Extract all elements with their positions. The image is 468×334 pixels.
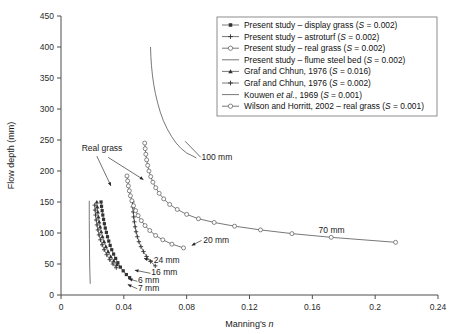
y-tick-label: 0 bbox=[49, 290, 54, 300]
data-marker-open-circle bbox=[144, 152, 148, 156]
data-marker-open-circle bbox=[128, 194, 132, 198]
annotation-leader-line bbox=[185, 141, 201, 157]
data-marker-plus bbox=[134, 230, 138, 234]
data-marker-filled-square bbox=[109, 244, 112, 247]
series-line bbox=[89, 201, 90, 284]
data-marker-plus bbox=[132, 215, 136, 219]
y-tick-group: 050100150200250300350400450 bbox=[40, 11, 61, 300]
legend-label: Present study – astroturf (S = 0.002) bbox=[244, 32, 379, 42]
x-tick-label: 0.12 bbox=[241, 302, 258, 312]
data-marker-open-circle bbox=[258, 228, 262, 232]
data-marker-filled-square bbox=[107, 239, 110, 242]
data-marker-open-circle bbox=[196, 217, 200, 221]
data-marker-filled-square bbox=[102, 218, 105, 221]
data-marker-filled-square bbox=[229, 23, 233, 27]
legend-label: Present study – flume steel bed (S = 0.0… bbox=[244, 55, 406, 65]
data-marker-open-circle bbox=[228, 104, 232, 108]
data-marker-open-circle bbox=[130, 199, 134, 203]
data-marker-filled-square bbox=[119, 266, 122, 269]
data-marker-filled-square bbox=[101, 209, 104, 212]
y-tick-label: 450 bbox=[40, 11, 54, 21]
y-tick-label: 250 bbox=[40, 135, 54, 145]
data-marker-plus bbox=[132, 220, 136, 224]
annotation-label: 100 mm bbox=[202, 152, 233, 162]
data-marker-open-circle bbox=[139, 219, 143, 223]
data-marker-filled-square bbox=[112, 252, 115, 255]
data-marker-open-circle bbox=[126, 179, 130, 183]
legend-label: Present study – real grass (S = 0.002) bbox=[244, 43, 386, 53]
data-marker-open-circle bbox=[126, 184, 130, 188]
data-marker-filled-square bbox=[122, 269, 125, 272]
data-marker-plus bbox=[137, 239, 141, 243]
data-marker-open-circle bbox=[136, 214, 140, 218]
data-marker-open-circle bbox=[143, 224, 147, 228]
series-kouwen bbox=[89, 201, 90, 284]
data-marker-open-circle bbox=[132, 204, 136, 208]
legend-label: Graf and Chhun, 1976 (S = 0.016) bbox=[244, 66, 371, 76]
legend-label: Kouwen et al., 1969 (S = 0.001) bbox=[244, 90, 362, 100]
data-marker-open-circle bbox=[212, 220, 216, 224]
y-tick-label: 150 bbox=[40, 197, 54, 207]
y-tick-label: 400 bbox=[40, 42, 54, 52]
data-marker-filled-square bbox=[99, 200, 102, 203]
data-marker-plus bbox=[141, 249, 145, 253]
data-marker-filled-square bbox=[104, 226, 107, 229]
data-marker-open-circle bbox=[161, 238, 165, 242]
annotation-label: 7 mm bbox=[138, 283, 159, 293]
data-marker-open-circle bbox=[168, 202, 172, 206]
annotation-arrow-head bbox=[140, 176, 144, 179]
annotation-label: 70 mm bbox=[319, 225, 345, 235]
x-tick-group: 00.040.080.120.160.20.24 bbox=[59, 295, 447, 312]
x-tick-label: 0.2 bbox=[369, 302, 381, 312]
annotation-arrow-head bbox=[129, 278, 133, 281]
data-marker-filled-square bbox=[110, 248, 113, 251]
annotation-label: 20 mm bbox=[203, 235, 229, 245]
series-line bbox=[145, 143, 396, 242]
annotation-label: 24 mm bbox=[154, 255, 180, 265]
data-marker-filled-square bbox=[106, 235, 109, 238]
y-tick-label: 50 bbox=[45, 259, 55, 269]
data-marker-open-circle bbox=[154, 186, 158, 190]
data-marker-open-circle bbox=[290, 232, 294, 236]
x-tick-label: 0.04 bbox=[116, 302, 133, 312]
data-marker-plus bbox=[135, 235, 139, 239]
x-tick-label: 0.08 bbox=[178, 302, 195, 312]
data-marker-open-circle bbox=[148, 229, 152, 233]
data-marker-open-circle bbox=[143, 147, 147, 151]
data-marker-open-circle bbox=[329, 235, 333, 239]
data-marker-open-circle bbox=[162, 197, 166, 201]
data-marker-open-circle bbox=[151, 180, 155, 184]
data-marker-open-circle bbox=[154, 233, 158, 237]
annotation-arrow-head bbox=[135, 269, 139, 272]
y-axis-title: Flow depth (mm) bbox=[6, 122, 16, 190]
y-tick-label: 100 bbox=[40, 228, 54, 238]
data-marker-open-circle bbox=[125, 174, 129, 178]
annotation-leader-line bbox=[97, 156, 111, 186]
data-marker-filled-triangle bbox=[95, 200, 99, 204]
data-marker-filled-square bbox=[100, 205, 103, 208]
data-marker-filled-square bbox=[114, 257, 117, 260]
data-marker-open-circle bbox=[149, 175, 153, 179]
data-marker-open-circle bbox=[143, 141, 147, 145]
data-marker-open-circle bbox=[157, 191, 161, 195]
data-marker-filled-square bbox=[125, 273, 128, 276]
data-marker-open-circle bbox=[170, 242, 174, 246]
data-marker-open-circle bbox=[182, 246, 186, 250]
data-marker-open-circle bbox=[233, 224, 237, 228]
series-line bbox=[151, 47, 197, 158]
data-marker-open-circle bbox=[146, 163, 150, 167]
series-real-grass-present bbox=[125, 174, 186, 250]
data-marker-plus bbox=[139, 244, 143, 248]
data-marker-open-circle bbox=[185, 212, 189, 216]
data-marker-open-circle bbox=[394, 240, 398, 244]
data-marker-open-circle bbox=[147, 169, 151, 173]
data-marker-filled-square bbox=[105, 231, 108, 234]
figure-container: 05010015020025030035040045000.040.080.12… bbox=[0, 0, 468, 334]
annotation-group: Real grass100 mm20 mm70 mm24 mm16 mm6 mm… bbox=[82, 141, 345, 292]
series-wilson-horritt bbox=[143, 141, 398, 244]
data-marker-open-circle bbox=[145, 158, 149, 162]
data-marker-open-circle bbox=[134, 209, 138, 213]
x-tick-label: 0 bbox=[59, 302, 64, 312]
data-marker-open-circle bbox=[175, 207, 179, 211]
data-marker-filled-square bbox=[101, 213, 104, 216]
